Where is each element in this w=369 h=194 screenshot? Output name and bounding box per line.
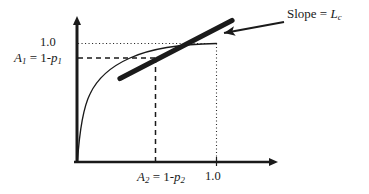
slope-symbol-subscript-c: c [338,12,342,22]
a2-equals-expression: = 1- [149,169,174,184]
response-curve [78,44,217,162]
tangent-line [120,21,232,79]
tangency-point-guides [78,58,156,161]
a1-symbol: A [14,50,22,65]
plot-canvas [0,0,369,194]
p1-subscript: 1 [58,56,62,66]
x-axis-value-label-a2: A2 = 1-p2 [137,170,185,185]
slope-callout-arrow [224,22,284,33]
slope-annotation-text: Slope = [287,6,330,21]
figure-container: 1.0 A1 = 1-p1 A2 = 1-p2 1.0 Slope = Lc [0,0,369,194]
y-axis-tick-label-one: 1.0 [40,36,56,49]
slope-annotation: Slope = Lc [287,7,342,22]
slope-symbol-l: L [330,6,337,21]
y-axis-value-label-a1: A1 = 1-p1 [14,51,62,66]
x-axis-tick-label-one: 1.0 [205,170,221,183]
p2-subscript: 2 [181,175,185,185]
axes-group [74,24,270,163]
a1-equals-expression: = 1- [26,50,51,65]
a2-symbol: A [137,169,145,184]
